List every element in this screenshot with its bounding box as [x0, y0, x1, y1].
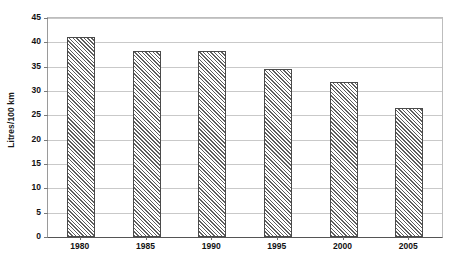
bar-1980 [67, 37, 95, 237]
plot-area [47, 17, 443, 238]
x-tick-label-2005: 2005 [399, 241, 418, 251]
bar-2000 [330, 82, 358, 237]
y-axis-tick-labels: 051015202530354045 [20, 17, 44, 238]
bar-1995 [264, 69, 292, 237]
x-tickmark-1980 [80, 237, 81, 240]
y-tick-label-25: 25 [32, 109, 41, 119]
y-tickmark-0 [44, 237, 48, 238]
bar-1990 [198, 51, 226, 237]
y-tick-label-45: 45 [32, 12, 41, 22]
x-tick-label-1980: 1980 [70, 241, 89, 251]
bar-2005 [395, 108, 423, 237]
y-tick-label-20: 20 [32, 134, 41, 144]
x-tick-label-1995: 1995 [267, 241, 286, 251]
x-tick-label-2000: 2000 [333, 241, 352, 251]
bar-1985 [133, 51, 161, 237]
x-tick-label-1985: 1985 [136, 241, 155, 251]
y-tick-label-0: 0 [36, 231, 41, 241]
y-tick-label-30: 30 [32, 85, 41, 95]
x-tickmark-1990 [211, 237, 212, 240]
y-tick-label-5: 5 [36, 207, 41, 217]
bars-layer [48, 18, 442, 237]
y-tick-label-40: 40 [32, 36, 41, 46]
gridline-0 [48, 237, 442, 238]
y-axis-title: Litres/100 km [2, 0, 20, 240]
x-tickmark-1995 [277, 237, 278, 240]
y-tick-label-10: 10 [32, 182, 41, 192]
y-tick-label-35: 35 [32, 61, 41, 71]
y-tick-label-15: 15 [32, 158, 41, 168]
x-tickmark-2000 [343, 237, 344, 240]
bar-chart: Litres/100 km 051015202530354045 1980198… [0, 0, 455, 270]
y-axis-title-text: Litres/100 km [6, 92, 16, 148]
x-axis-tick-labels: 198019851990199520002005 [47, 241, 443, 261]
x-tickmark-1985 [146, 237, 147, 240]
x-tick-label-1990: 1990 [202, 241, 221, 251]
x-tickmark-2005 [408, 237, 409, 240]
